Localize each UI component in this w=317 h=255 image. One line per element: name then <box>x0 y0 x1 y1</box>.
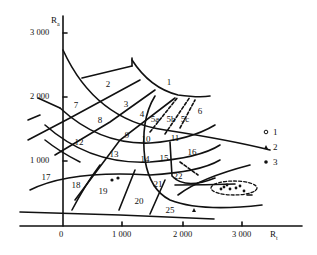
region-label: 2 <box>106 80 111 89</box>
x-tick-1000: 1 000 <box>112 230 131 239</box>
region-label: 5a <box>151 115 160 124</box>
x-axis-title: Rt <box>270 230 278 243</box>
region-label: 12 <box>75 138 84 147</box>
region-label: 14 <box>141 155 150 164</box>
region-label: 15 <box>160 154 169 163</box>
region-label: 5c <box>181 115 190 124</box>
legend-label-2: 2 <box>273 143 278 152</box>
y-tick-3000: 3 000 <box>30 28 49 37</box>
region-label: 4 <box>140 110 145 119</box>
region-label: 18 <box>72 181 81 190</box>
diagram-lines <box>0 0 317 255</box>
region-label: 7 <box>74 101 79 110</box>
y-axis-title: Ra <box>51 16 60 29</box>
region-label: 16 <box>188 148 197 157</box>
region-label: 3 <box>124 100 129 109</box>
region-label: 10 <box>142 135 151 144</box>
region-label: 25 <box>166 206 175 215</box>
region-label: 5b <box>167 115 176 124</box>
legend-label-1: 1 <box>273 128 278 137</box>
region-label: 11 <box>171 134 180 143</box>
y-tick-1000: 1 000 <box>30 156 49 165</box>
y-tick-2000: 2 000 <box>30 92 49 101</box>
legend-label-3: 3 <box>273 158 278 167</box>
region-label: 9 <box>125 131 130 140</box>
region-label: 20 <box>135 197 144 206</box>
region-label: 19 <box>99 187 108 196</box>
region-label: 21 <box>154 180 163 189</box>
region-label: 17 <box>42 173 51 182</box>
x-tick-3000: 3 000 <box>232 230 251 239</box>
resistivity-zone-diagram: 3 000 2 000 1 000 0 1 000 2 000 3 000 Ra… <box>0 0 317 255</box>
x-tick-2000: 2 000 <box>173 230 192 239</box>
region-label: 8 <box>98 116 103 125</box>
region-label: 6 <box>198 107 203 116</box>
region-label: 1 <box>167 78 172 87</box>
region-label: 22 <box>174 172 183 181</box>
region-label: 13 <box>110 150 119 159</box>
x-tick-0: 0 <box>59 230 63 239</box>
